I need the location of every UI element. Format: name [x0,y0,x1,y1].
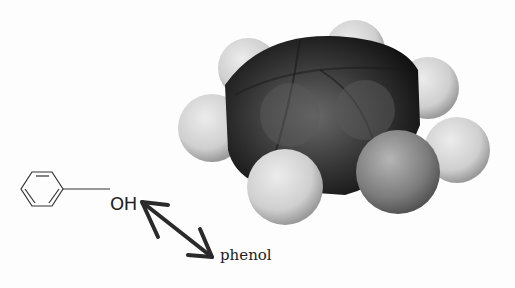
benzene-ring [21,172,110,206]
hydrogen-atom [247,149,323,225]
oxygen-atom [356,130,440,214]
diagram-canvas [0,0,515,288]
phenol-diagram: OH phenol [0,0,515,288]
space-filling-model [178,20,490,225]
double-arrow [142,202,212,257]
compound-name-label: phenol [220,246,272,264]
hydroxyl-label: OH [110,193,137,214]
